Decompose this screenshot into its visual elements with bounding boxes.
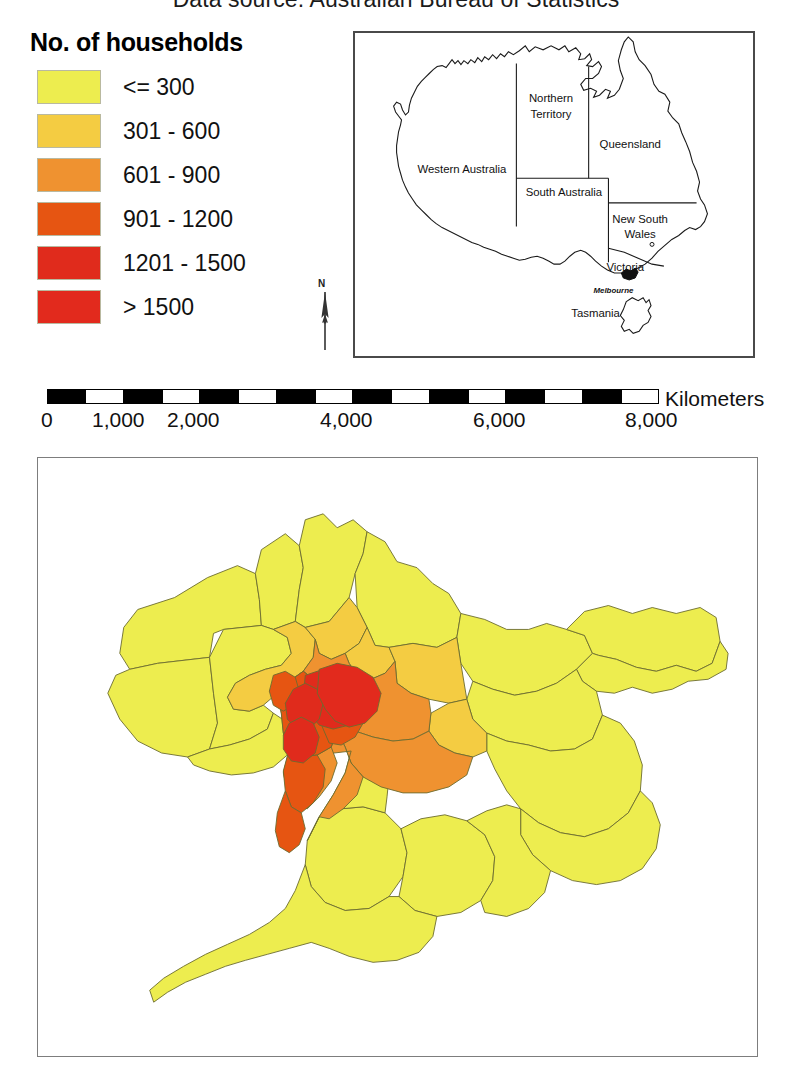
scalebar-segment — [162, 389, 200, 404]
tasmania-outline — [620, 298, 651, 334]
inset-label-south-australia: South Australia — [526, 186, 603, 198]
scalebar-segment — [544, 389, 582, 404]
scalebar-segment — [468, 389, 506, 404]
legend-label-0: <= 300 — [123, 74, 195, 101]
legend-item: 601 - 900 — [22, 153, 342, 197]
inset-label-new-south-wales-2: Wales — [625, 228, 656, 240]
legend-item: 301 - 600 — [22, 109, 342, 153]
scalebar-segment — [85, 389, 123, 404]
inset-label-victoria: Victoria — [606, 261, 644, 273]
scalebar-segment — [353, 389, 391, 404]
legend-item: 1201 - 1500 — [22, 241, 342, 285]
scalebar-tick-2: 2,000 — [167, 408, 220, 432]
scalebar-segment — [621, 389, 659, 404]
scalebar-segment — [506, 389, 544, 404]
legend-swatch-1 — [37, 114, 101, 148]
inset-label-queensland: Queensland — [600, 138, 661, 150]
legend-swatch-5 — [37, 290, 101, 324]
main-map-melbourne — [37, 457, 758, 1057]
legend-label-4: 1201 - 1500 — [123, 250, 246, 277]
scalebar-segment — [430, 389, 468, 404]
legend-swatch-3 — [37, 202, 101, 236]
legend-title: No. of households — [30, 28, 342, 57]
scalebar-segment — [124, 389, 162, 404]
legend-swatch-2 — [37, 158, 101, 192]
legend-label-2: 601 - 900 — [123, 162, 220, 189]
scalebar-segment — [200, 389, 238, 404]
inset-label-northern-territory: Northern — [529, 92, 573, 104]
choropleth-regions — [108, 514, 728, 1002]
north-arrow-icon: N — [306, 278, 346, 358]
inset-map-australia: Northern Territory Queensland Western Au… — [353, 31, 755, 358]
scalebar-tick-1: 1,000 — [92, 408, 145, 432]
legend-swatch-4 — [37, 246, 101, 280]
scalebar-tick-4: 6,000 — [473, 408, 526, 432]
region-s-inner — [305, 807, 407, 911]
region-w-outer — [108, 657, 218, 757]
inset-label-northern-territory-2: Territory — [530, 108, 571, 120]
legend: No. of households <= 300 301 - 600 601 -… — [22, 28, 342, 329]
legend-item: > 1500 — [22, 285, 342, 329]
scalebar-segment — [277, 389, 315, 404]
inset-label-new-south-wales: New South — [612, 213, 668, 225]
legend-label-3: 901 - 1200 — [123, 206, 233, 233]
scalebar-tick-3: 4,000 — [320, 408, 373, 432]
scalebar-segment — [238, 389, 276, 404]
legend-label-5: > 1500 — [123, 294, 194, 321]
australia-outline — [394, 37, 708, 273]
north-arrow-label: N — [318, 278, 325, 289]
inset-label-tasmania: Tasmania — [571, 307, 620, 319]
scalebar — [47, 389, 659, 404]
legend-item: 901 - 1200 — [22, 197, 342, 241]
scalebar-tick-0: 0 — [41, 408, 53, 432]
scalebar-segment — [47, 389, 85, 404]
scalebar-tick-5: 8,000 — [625, 408, 678, 432]
scalebar-segment — [583, 389, 621, 404]
page-title: Data source: Australian Bureau of Statis… — [0, 0, 792, 13]
scalebar-unit-label: Kilometers — [665, 387, 764, 411]
inset-label-western-australia: Western Australia — [417, 163, 507, 175]
region-ne-upper — [355, 532, 461, 648]
legend-swatch-0 — [37, 70, 101, 104]
legend-label-1: 301 - 600 — [123, 118, 220, 145]
scalebar-segment — [391, 389, 429, 404]
scalebar-segment — [315, 389, 353, 404]
legend-item: <= 300 — [22, 65, 342, 109]
inset-label-melbourne: Melbourne — [593, 286, 634, 295]
